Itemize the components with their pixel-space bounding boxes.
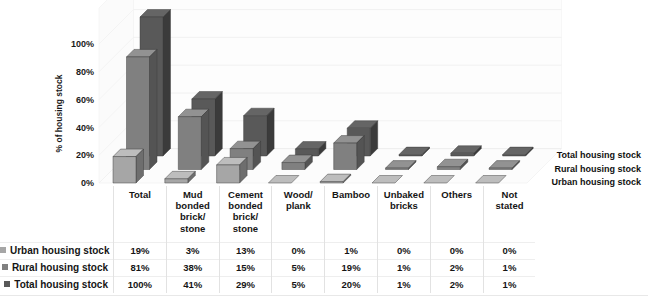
spacer-cell <box>219 234 272 243</box>
table-corner-cell <box>0 186 114 234</box>
header-line: Others <box>431 189 483 200</box>
header-line: stated <box>484 200 536 211</box>
data-table-panel: TotalMudbondedbrick/stoneCementbondedbri… <box>0 186 648 296</box>
spacer-cell <box>377 234 430 243</box>
table-cell-value: 5% <box>272 276 325 293</box>
bar-face <box>217 165 240 183</box>
table-cell-value: 2% <box>430 276 483 293</box>
table-row-label: Total housing stock <box>0 276 114 293</box>
row-label-text: Rural housing stock <box>12 262 108 273</box>
table-cell-value: 5% <box>272 259 325 276</box>
table-column-header: Total <box>114 186 167 234</box>
table-column-header: Notstated <box>483 186 535 234</box>
legend-swatch-icon <box>4 281 10 287</box>
table-cell-value: 1% <box>377 259 430 276</box>
header-line: Cement <box>220 189 272 200</box>
header-line: Bamboo <box>325 189 377 200</box>
bar-urban-0 <box>113 149 144 183</box>
z-axis-label-0: Total housing stock <box>557 150 642 160</box>
z-axis-label-1: Rural housing stock <box>554 164 642 174</box>
bar-face <box>165 179 188 183</box>
header-line: bricks <box>378 200 430 211</box>
y-axis-tick-label: 40% <box>76 123 94 133</box>
table-cell-value: 0% <box>483 242 535 259</box>
legend-swatch-icon <box>0 247 6 253</box>
header-line: brick/ <box>167 211 219 222</box>
table-column-header: Mudbondedbrick/stone <box>166 186 219 234</box>
header-line: stone <box>220 223 272 234</box>
bar-urban-2 <box>217 157 248 183</box>
bar-face <box>386 168 409 169</box>
table-row-label: Rural housing stock <box>0 259 114 276</box>
table-row[interactable]: Total housing stock100%41%29%5%20%1%2%1% <box>0 276 535 293</box>
header-line: Unbaked <box>378 189 430 200</box>
table-cell-value: 15% <box>219 259 272 276</box>
header-line: Not <box>484 189 536 200</box>
bar-rural-4 <box>334 136 365 170</box>
header-line: Mud <box>167 189 219 200</box>
table-cell-value: 1% <box>377 276 430 293</box>
table-cell-value: 38% <box>166 259 219 276</box>
bar-face <box>503 155 526 156</box>
bar-face <box>437 167 460 170</box>
y-axis-title: % of housing stock <box>54 74 64 152</box>
table-cell-value: 19% <box>325 259 378 276</box>
y-axis-tick-label: 100% <box>71 39 94 49</box>
spacer-cell <box>430 234 483 243</box>
table-column-header: Cementbondedbrick/stone <box>219 186 272 234</box>
table-cell-value: 3% <box>166 242 219 259</box>
bar-face <box>451 153 474 156</box>
table-row[interactable]: Urban housing stock19%3%13%0%1%0%0%0% <box>0 242 535 259</box>
table-column-header: Wood/plank <box>272 186 325 234</box>
spacer-cell <box>483 234 535 243</box>
table-cell-value: 1% <box>483 259 535 276</box>
header-line: bonded <box>167 200 219 211</box>
table-cell-value: 1% <box>483 276 535 293</box>
table-row[interactable]: Rural housing stock81%38%15%5%19%1%2%1% <box>0 259 535 276</box>
header-line: brick/ <box>220 211 272 222</box>
table-cell-value: 19% <box>114 242 167 259</box>
table-cell-value: 13% <box>219 242 272 259</box>
table-column-header: Unbakedbricks <box>377 186 430 234</box>
table-spacer-row <box>0 234 535 243</box>
header-line: plank <box>272 200 324 211</box>
table-cell-value: 0% <box>272 242 325 259</box>
table-cell-value: 0% <box>430 242 483 259</box>
table-column-header: Others <box>430 186 483 234</box>
table-cell-value: 0% <box>377 242 430 259</box>
table-cell-value: 29% <box>219 276 272 293</box>
bar-face <box>201 109 209 169</box>
table-cell-value: 41% <box>166 276 219 293</box>
bar-face <box>320 182 343 183</box>
header-line: bonded <box>220 200 272 211</box>
table-header-row: TotalMudbondedbrick/stoneCementbondedbri… <box>0 186 535 234</box>
bar-face <box>150 49 158 169</box>
header-line: Total <box>114 189 166 200</box>
bar-face <box>489 168 512 169</box>
bar-face <box>113 157 136 183</box>
y-axis-tick-label: 80% <box>76 67 94 77</box>
bar-face <box>399 155 422 156</box>
spacer-cell <box>166 234 219 243</box>
row-label-text: Urban housing stock <box>10 245 109 256</box>
table-cell-value: 2% <box>430 259 483 276</box>
spacer-cell <box>272 234 325 243</box>
bar-face <box>163 10 171 157</box>
data-table: TotalMudbondedbrick/stoneCementbondedbri… <box>0 186 535 293</box>
table-cell-value: 20% <box>325 276 378 293</box>
bar-face <box>334 143 357 169</box>
spacer-cell <box>114 234 167 243</box>
bar-rural-1 <box>178 109 209 169</box>
row-label-text: Total housing stock <box>14 279 108 290</box>
table-cell-value: 100% <box>114 276 167 293</box>
bar-face <box>178 117 201 170</box>
spacer-cell <box>325 234 378 243</box>
y-axis-tick-label: 60% <box>76 95 94 105</box>
header-line: Wood/ <box>272 189 324 200</box>
table-cell-value: 81% <box>114 259 167 276</box>
table-cell-value: 1% <box>325 242 378 259</box>
legend-swatch-icon <box>2 264 8 270</box>
header-line: stone <box>167 223 219 234</box>
bar-face <box>215 92 223 156</box>
table-column-header: Bamboo <box>325 186 378 234</box>
